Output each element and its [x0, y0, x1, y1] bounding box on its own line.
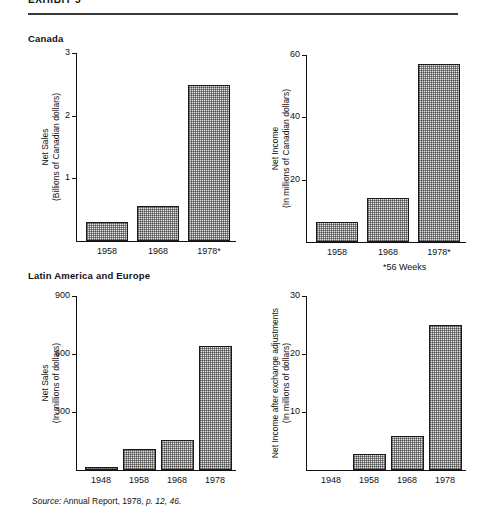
source-body: Annual Report, 1978,: [61, 496, 146, 506]
bar: [391, 436, 424, 470]
source-label: Source:: [32, 496, 61, 506]
y-axis-line: [306, 296, 307, 471]
source-pages: p. 12, 46.: [146, 496, 181, 506]
footnote-56-weeks: *56 Weeks: [383, 262, 426, 272]
bar: [353, 454, 386, 470]
x-category-label: 1978: [417, 475, 473, 485]
y-axis-title-line2: (In millions of dollars): [281, 296, 292, 470]
y-tick: [302, 412, 307, 413]
y-axis-title-line1: Net Income after exchange adjustments: [270, 296, 281, 470]
y-axis-title: Net Income after exchange adjustments(In…: [270, 296, 292, 470]
y-tick: [302, 296, 307, 297]
y-tick: [302, 354, 307, 355]
source-citation: Source: Annual Report, 1978, p. 12, 46.: [32, 496, 181, 506]
x-axis-line: [306, 470, 466, 471]
bar: [429, 325, 462, 470]
